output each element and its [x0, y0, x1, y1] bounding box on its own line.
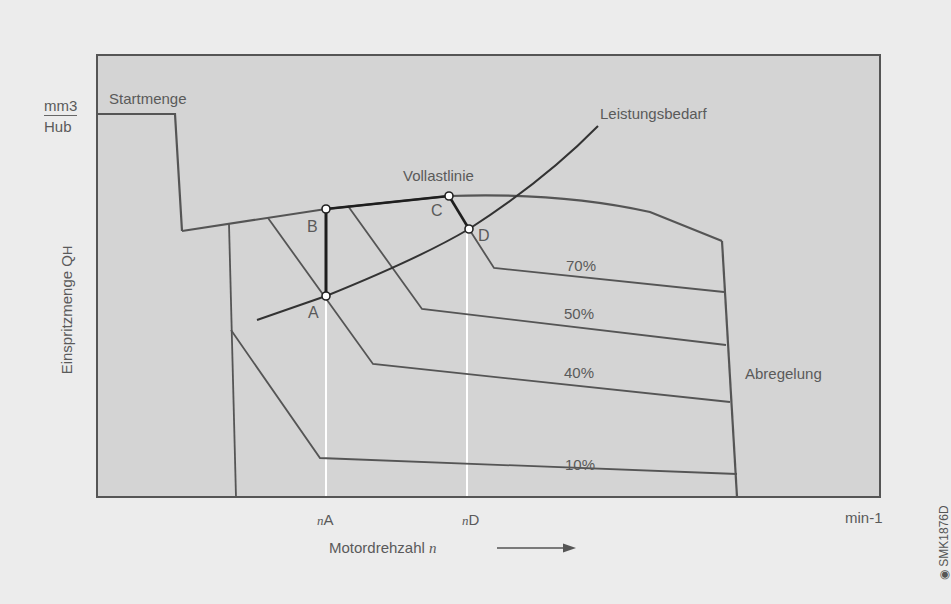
x-axis-label: Motordrehzahl n — [329, 540, 437, 556]
point-a-marker — [322, 292, 330, 300]
tick-nd-subscript: D — [469, 511, 480, 528]
vollastlinie-label: Vollastlinie — [403, 168, 474, 183]
leistungsbedarf-label: Leistungsbedarf — [600, 106, 707, 121]
figure-code: ◉ SMK1876D — [937, 505, 951, 580]
copyright-icon: ◉ — [937, 570, 951, 580]
plot-area — [97, 55, 880, 497]
point-d-label: D — [478, 228, 490, 244]
point-b-label: B — [307, 219, 318, 235]
x-axis-label-symbol: n — [429, 540, 437, 556]
arrow-right-icon — [563, 544, 576, 553]
tick-na-subscript: A — [324, 511, 334, 528]
x-axis-unit: min-1 — [845, 510, 883, 525]
y-axis-label: Einspritzmenge QH — [58, 246, 75, 375]
point-c-marker — [445, 192, 453, 200]
point-b-marker — [322, 205, 330, 213]
percent-10-label: 10% — [565, 457, 595, 472]
x-axis-label-text: Motordrehzahl — [329, 539, 425, 556]
figure-code-text: SMK1876D — [937, 505, 951, 566]
y-axis-label-subscript: H — [60, 246, 75, 255]
point-a-label: A — [308, 305, 319, 321]
point-c-label: C — [431, 203, 443, 219]
startmenge-label: Startmenge — [109, 91, 187, 106]
percent-40-label: 40% — [564, 365, 594, 380]
diagram-stage: mm3 Hub Einspritzmenge QH Startmenge Lei… — [0, 0, 951, 604]
y-unit-denominator: Hub — [44, 116, 77, 134]
abregelung-label: Abregelung — [745, 366, 822, 381]
y-unit-numerator: mm3 — [44, 98, 77, 116]
percent-50-label: 50% — [564, 306, 594, 321]
percent-70-label: 70% — [566, 258, 596, 273]
point-d-marker — [465, 225, 473, 233]
y-axis-unit: mm3 Hub — [44, 98, 77, 134]
tick-nd-label: nD — [462, 512, 479, 527]
tick-na-label: nA — [317, 512, 334, 527]
y-axis-label-text: Einspritzmenge Q — [58, 255, 75, 374]
